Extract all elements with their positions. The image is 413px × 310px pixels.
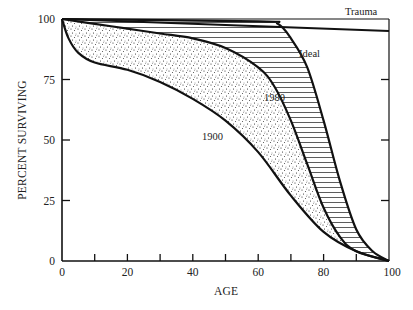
x-axis-ticks	[95, 254, 357, 261]
y-tick-25: 25	[44, 195, 56, 207]
y-tick-100: 100	[38, 13, 56, 25]
x-tick-labels: 0 20 40 60 80 100	[59, 266, 401, 278]
area-fills	[62, 19, 389, 261]
caption-area	[0, 297, 413, 307]
x-axis-title: AGE	[214, 285, 238, 297]
y-tick-75: 75	[44, 74, 56, 86]
label-1980: 1980	[264, 92, 285, 103]
label-1900: 1900	[202, 131, 223, 142]
label-trauma: Trauma	[345, 6, 378, 17]
x-tick-100: 100	[383, 266, 401, 278]
x-tick-0: 0	[59, 266, 65, 278]
y-axis-title: PERCENT SURVIVING	[16, 80, 28, 200]
x-tick-20: 20	[122, 266, 134, 278]
survival-chart: 0 20 40 60 80 100 0 25 50 75 100 AGE PER…	[0, 0, 413, 310]
x-tick-40: 40	[187, 266, 199, 278]
y-tick-labels: 0 25 50 75 100	[38, 13, 56, 267]
y-tick-50: 50	[44, 134, 56, 146]
label-ideal: Ideal	[299, 48, 320, 59]
x-tick-80: 80	[318, 266, 330, 278]
y-tick-0: 0	[49, 255, 55, 267]
x-tick-60: 60	[252, 266, 264, 278]
